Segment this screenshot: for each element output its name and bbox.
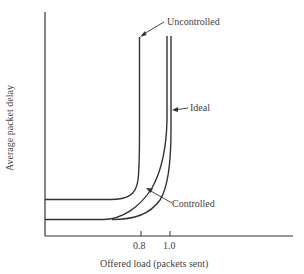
series-ideal [45,36,167,220]
annotation-uncontrolled: Uncontrolled [167,17,220,27]
annotation-ideal: Ideal [190,103,210,113]
series-controlled [112,36,171,220]
x-tick-label-1.0: 1.0 [163,241,176,251]
series-uncontrolled [45,37,140,200]
annotation-controlled: Controlled [172,199,215,209]
arrowhead-uncontrolled [140,31,147,37]
x-tick-label-0.8: 0.8 [133,241,146,251]
arrow-controlled [149,190,172,203]
y-axis-label: Average packet delay [4,58,15,198]
arrowhead-ideal [172,107,178,112]
chart-canvas [0,0,304,274]
x-axis-label: Offered load (packets sent) [100,259,208,269]
